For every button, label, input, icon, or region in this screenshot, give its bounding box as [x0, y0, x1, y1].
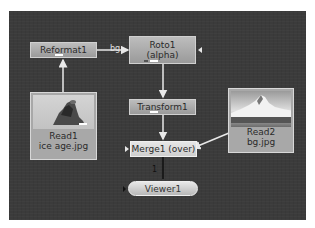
node-read1[interactable]: Read1 ice age.jpg	[30, 92, 97, 160]
node-label: Read1	[31, 131, 96, 141]
node-label: Merge1 (over)	[132, 144, 196, 154]
node-indicator	[150, 60, 158, 62]
node-label: Transform1	[137, 102, 188, 112]
wire-read2-merge1	[193, 133, 229, 148]
node-indicator-secondary	[144, 60, 148, 62]
node-sublabel: bg.jpg	[229, 137, 293, 147]
node-label: Viewer1	[145, 184, 181, 194]
node-sublabel: (alpha)	[147, 50, 179, 60]
node-label: Reformat1	[40, 45, 87, 55]
thumbnail-bg	[231, 91, 291, 127]
thumbnail-image-icon	[33, 95, 94, 129]
viewer-input-arrow-icon[interactable]	[123, 186, 126, 192]
node-label: Roto1	[149, 40, 175, 50]
node-sublabel: ice age.jpg	[31, 141, 96, 151]
edge-label-bg: bg	[110, 44, 120, 53]
node-indicator	[150, 111, 158, 113]
input-a-arrow-icon[interactable]	[125, 146, 129, 152]
node-viewer1[interactable]: Viewer1	[128, 181, 198, 196]
node-roto1[interactable]: Roto1 (alpha)	[129, 36, 196, 64]
node-merge1[interactable]: Merge1 (over)	[130, 141, 197, 157]
node-transform1[interactable]: Transform1	[129, 99, 196, 115]
thumbnail-image-icon	[231, 91, 291, 127]
mask-input-arrow-icon[interactable]	[198, 47, 202, 53]
node-graph-canvas[interactable]: bg 1 Reformat1 Roto1 (alpha) Transform1 …	[9, 11, 306, 220]
thumbnail-ice-age	[33, 95, 94, 129]
node-indicator	[55, 54, 63, 56]
edge-label-input: 1	[152, 165, 157, 174]
node-label: Read2	[229, 127, 293, 137]
node-reformat1[interactable]: Reformat1	[30, 42, 97, 58]
node-read2[interactable]: Read2 bg.jpg	[228, 88, 294, 153]
